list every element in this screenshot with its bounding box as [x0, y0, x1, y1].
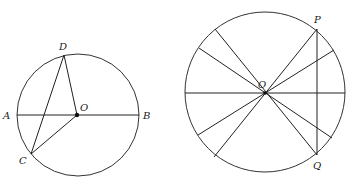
- center-point-O: [75, 113, 79, 117]
- geometry-figure: A B O D C O P Q: [0, 0, 352, 193]
- left-figure: A B O D C: [2, 41, 150, 176]
- label-D: D: [58, 41, 67, 52]
- segment-DO: [64, 55, 77, 115]
- label-O-left: O: [80, 102, 88, 113]
- label-P: P: [313, 14, 321, 25]
- right-figure: O P Q: [185, 12, 345, 172]
- label-O-right: O: [258, 79, 266, 90]
- label-B: B: [142, 110, 150, 121]
- segment-DC: [31, 55, 64, 154]
- label-Q: Q: [313, 160, 321, 171]
- center-point-O-right: [263, 91, 267, 95]
- label-A: A: [2, 110, 10, 121]
- label-C: C: [19, 155, 27, 166]
